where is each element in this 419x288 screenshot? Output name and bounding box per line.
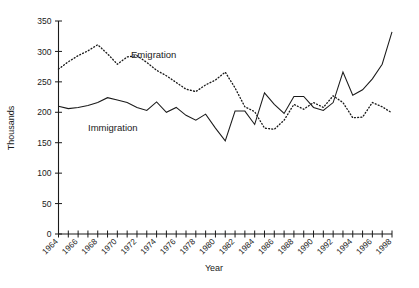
x-tick-label: 1994 [335,237,355,257]
x-tick-label: 1980 [198,237,218,257]
y-axis-title: Thousands [6,105,16,150]
series-annotations: EmigrationImmigration [88,49,176,133]
x-tick-label: 1972 [119,237,139,257]
line-chart: 050100150200250300350 196419661968197019… [0,0,419,288]
x-axis: 1964196619681970197219741976197819801982… [41,231,394,257]
x-tick-label: 1996 [355,237,375,257]
y-tick-label: 200 [37,107,51,117]
y-tick-label: 350 [37,16,51,26]
x-tick-label: 1986 [256,237,276,257]
emigration-label: Emigration [131,49,176,60]
series-line-emigration [59,45,393,130]
x-tick-label: 1974 [139,237,159,257]
x-tick-label: 1966 [60,237,80,257]
x-tick-label: 1988 [276,237,296,257]
y-tick-label: 0 [47,229,52,239]
y-tick-label: 250 [37,77,51,87]
y-tick-label: 150 [37,138,51,148]
x-tick-label: 1982 [217,237,237,257]
x-tick-label: 1984 [237,237,257,257]
x-tick-label: 1978 [178,237,198,257]
chart-container: 050100150200250300350 196419661968197019… [0,0,419,288]
y-tick-label: 100 [37,168,51,178]
x-tick-label: 1990 [296,237,316,257]
x-tick-label: 1992 [315,237,335,257]
x-tick-label: 1964 [41,237,61,257]
x-tick-label: 1968 [80,237,100,257]
y-tick-label: 300 [37,47,51,57]
x-tick-label: 1998 [374,237,394,257]
y-axis: 050100150200250300350 [37,16,62,239]
y-tick-label: 50 [42,199,52,209]
x-tick-label: 1976 [158,237,178,257]
x-axis-title: Year [205,263,223,273]
x-tick-label: 1970 [100,237,120,257]
immigration-label: Immigration [88,122,138,133]
